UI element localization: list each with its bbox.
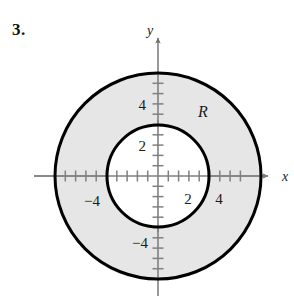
x-tick-label-2: 2 [184, 191, 192, 207]
figure-container: 3. [0, 0, 294, 296]
coordinate-plot: y x 4 2 −4 −4 2 4 R [0, 0, 294, 296]
x-tick-label-4: 4 [215, 191, 223, 207]
y-tick-label-2: 2 [139, 138, 147, 154]
y-tick-label-negative-4: −4 [132, 235, 148, 251]
x-tick-label-negative-4: −4 [84, 193, 100, 209]
y-tick-label-4: 4 [139, 97, 147, 113]
x-axis-label: x [281, 169, 289, 184]
y-axis-label: y [145, 23, 154, 38]
region-label-R: R [197, 103, 208, 120]
